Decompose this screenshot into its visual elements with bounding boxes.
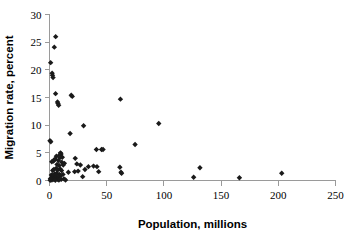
scatter-chart: 050100150200250051015202530Population, m… <box>0 0 355 247</box>
data-point <box>52 44 57 49</box>
data-point <box>191 174 196 179</box>
data-point <box>94 147 99 152</box>
x-tick-label: 150 <box>213 189 230 201</box>
data-point <box>94 164 99 169</box>
y-tick-label: 10 <box>31 119 43 131</box>
data-point <box>81 123 86 128</box>
x-tick-label: 200 <box>270 189 287 201</box>
data-point <box>66 170 71 175</box>
plot-area: 050100150200250051015202530Population, m… <box>0 0 355 247</box>
data-point <box>72 169 77 174</box>
data-point <box>48 60 53 65</box>
data-point <box>132 142 137 147</box>
x-tick-label: 50 <box>101 189 113 201</box>
data-point <box>279 171 284 176</box>
data-point <box>96 169 101 174</box>
x-tick-label: 0 <box>47 189 53 201</box>
y-axis-title: Migration rate, percent <box>3 35 15 159</box>
data-point <box>73 156 78 161</box>
y-tick-label: 5 <box>36 147 42 159</box>
data-point <box>53 91 58 96</box>
data-point <box>237 175 242 180</box>
data-point <box>117 165 122 170</box>
x-tick-label: 100 <box>156 189 173 201</box>
data-point <box>156 121 161 126</box>
data-points <box>47 34 284 183</box>
data-point <box>53 34 58 39</box>
y-tick-label: 0 <box>36 175 42 187</box>
data-point <box>197 165 202 170</box>
data-point <box>67 131 72 136</box>
x-axis-title: Population, millions <box>138 218 247 230</box>
y-tick-label: 25 <box>31 36 43 48</box>
y-tick-label: 20 <box>31 64 43 76</box>
x-tick-label: 250 <box>327 189 344 201</box>
y-tick-label: 15 <box>31 92 43 104</box>
y-tick-label: 30 <box>31 9 43 21</box>
data-point <box>118 96 123 101</box>
data-point <box>80 174 85 179</box>
